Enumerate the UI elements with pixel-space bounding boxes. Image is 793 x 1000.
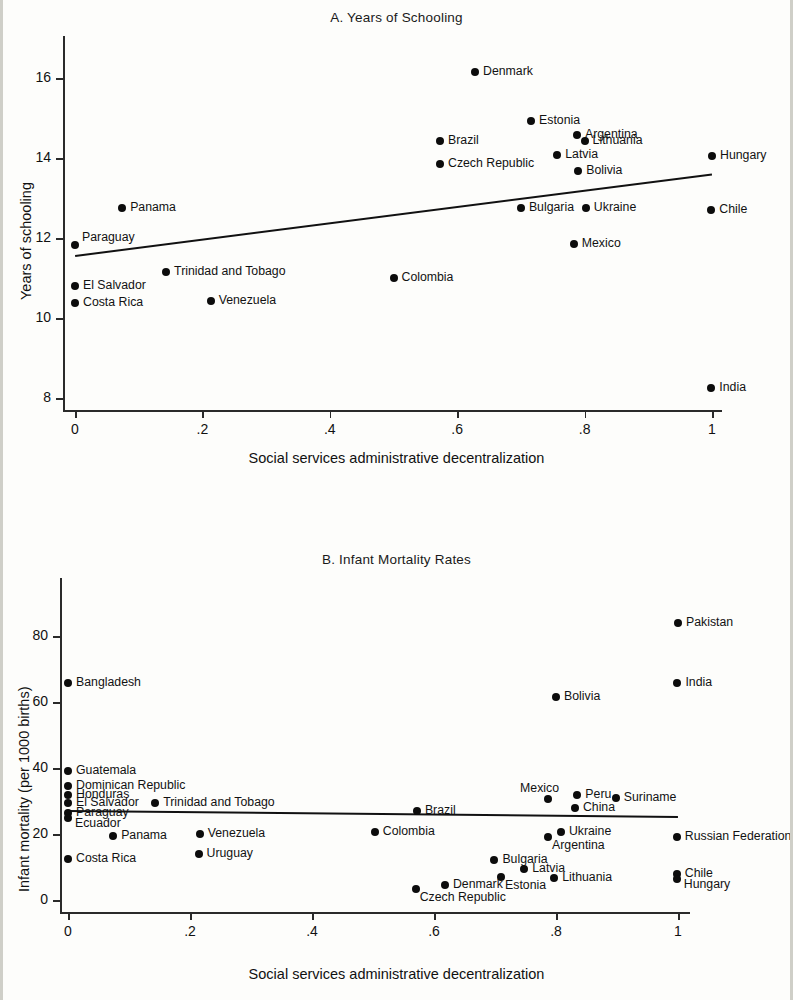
data-point-label: Mexico: [520, 782, 559, 794]
data-point: [544, 795, 552, 803]
data-point-label: Bangladesh: [76, 676, 141, 688]
data-point: [550, 874, 558, 882]
data-point: [196, 830, 204, 838]
y-tick-label-b-0: 0: [14, 891, 48, 907]
data-point-label: Latvia: [565, 148, 598, 160]
data-point-label: Paraguay: [82, 231, 135, 243]
plot-area-b: 0204060800.2.4.6.81PakistanIndiaBanglade…: [0, 500, 793, 1000]
data-point: [71, 299, 79, 307]
data-point: [571, 804, 579, 812]
data-point-label: Trinidad and Tobago: [174, 265, 285, 277]
data-point-label: Ukraine: [569, 825, 611, 837]
x-tick-a-5: [712, 410, 714, 418]
data-point: [674, 619, 682, 627]
y-tick-b-1: [53, 834, 60, 836]
data-point-label: Hungary: [720, 149, 766, 161]
data-point-label: Trinidad and Tobago: [163, 796, 274, 808]
data-point-label: Lithuania: [593, 134, 643, 146]
y-tick-label-a-4: 16: [17, 69, 51, 85]
x-tick-label-b-4: .8: [542, 923, 570, 939]
data-point-label: Panama: [121, 829, 167, 841]
x-axis-title-a: Social services administrative decentral…: [0, 450, 793, 466]
data-point: [574, 167, 582, 175]
data-point: [707, 384, 715, 392]
x-tick-a-0: [75, 410, 77, 418]
x-tick-a-1: [202, 410, 204, 418]
data-point-label: Peru: [585, 788, 611, 800]
data-point-label: Brazil: [425, 804, 456, 816]
x-tick-label-a-5: 1: [698, 421, 726, 437]
x-tick-label-a-4: .8: [571, 421, 599, 437]
data-point: [673, 875, 681, 883]
x-tick-b-2: [312, 912, 314, 920]
data-point: [527, 117, 535, 125]
data-point-label: Latvia: [532, 862, 565, 874]
data-point-label: Czech Republic: [420, 891, 506, 903]
x-tick-label-a-2: .4: [316, 421, 344, 437]
y-tick-a-4: [56, 78, 63, 80]
data-point: [673, 833, 681, 841]
y-tick-label-a-1: 10: [17, 309, 51, 325]
x-tick-a-4: [585, 410, 587, 418]
data-point-label: Lithuania: [562, 871, 612, 883]
y-axis-line-b: [60, 578, 62, 912]
data-point-label: Mexico: [582, 237, 621, 249]
x-tick-label-a-3: .6: [443, 421, 471, 437]
data-point: [552, 693, 560, 701]
data-point-label: Pakistan: [686, 616, 733, 628]
data-point-label: Colombia: [402, 271, 454, 283]
data-point-label: Suriname: [624, 791, 677, 803]
data-point: [412, 885, 420, 893]
data-point: [151, 799, 159, 807]
data-point-label: Czech Republic: [448, 157, 534, 169]
y-tick-label-a-0: 8: [17, 389, 51, 405]
data-point: [390, 274, 398, 282]
chart-panel-infant-mortality: B. Infant Mortality Rates 0204060800.2.4…: [0, 500, 793, 1000]
data-point: [441, 881, 449, 889]
data-point: [436, 160, 444, 168]
data-point-label: Bolivia: [564, 690, 600, 702]
data-point: [490, 856, 498, 864]
data-point-label: Estonia: [505, 879, 546, 891]
x-tick-b-0: [68, 912, 70, 920]
data-point: [195, 850, 203, 858]
x-axis-line-b: [60, 912, 690, 914]
data-point-label: Costa Rica: [76, 852, 136, 864]
data-point: [570, 240, 578, 248]
data-point: [162, 268, 170, 276]
data-point-label: Denmark: [483, 65, 533, 77]
x-tick-label-b-2: .4: [298, 923, 326, 939]
data-point: [118, 204, 126, 212]
x-tick-b-5: [678, 912, 680, 920]
data-point: [708, 152, 716, 160]
x-tick-label-a-0: 0: [61, 421, 89, 437]
data-point: [64, 799, 72, 807]
data-point: [582, 204, 590, 212]
data-point: [64, 767, 72, 775]
data-point: [573, 791, 581, 799]
data-point-label: India: [685, 676, 712, 688]
x-axis-line-a: [63, 410, 722, 412]
data-point-label: Ukraine: [594, 201, 636, 213]
data-point-label: Ecuador: [75, 817, 121, 829]
y-tick-b-3: [53, 702, 60, 704]
data-point-label: Denmark: [453, 878, 503, 890]
y-tick-b-4: [53, 636, 60, 638]
data-point-label: Colombia: [383, 825, 435, 837]
x-tick-b-3: [434, 912, 436, 920]
x-tick-a-2: [330, 410, 332, 418]
y-tick-a-0: [56, 398, 63, 400]
data-point: [413, 807, 421, 815]
data-point: [371, 828, 379, 836]
data-point: [471, 68, 479, 76]
data-point-label: Guatemala: [76, 764, 136, 776]
data-point: [64, 791, 72, 799]
y-tick-a-1: [56, 318, 63, 320]
data-point: [207, 297, 215, 305]
x-tick-label-a-1: .2: [188, 421, 216, 437]
y-tick-a-3: [56, 158, 63, 160]
x-tick-label-b-3: .6: [420, 923, 448, 939]
data-point: [109, 832, 117, 840]
x-tick-a-3: [457, 410, 459, 418]
data-point-label: Uruguay: [207, 847, 253, 859]
